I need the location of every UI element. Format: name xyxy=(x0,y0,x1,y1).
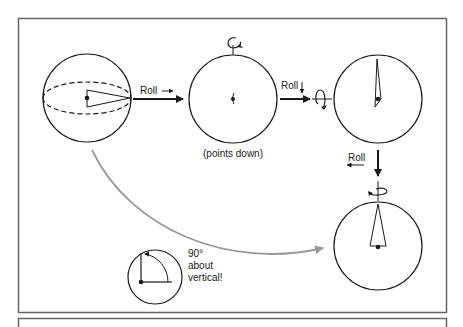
roll-arrow-1: Roll xyxy=(133,85,183,99)
inset-text-about: about xyxy=(188,260,213,271)
equivalence-curve-arrow xyxy=(92,150,323,254)
sphere-points-down: (points down) xyxy=(189,38,277,159)
points-down-caption: (points down) xyxy=(203,148,263,159)
inset-text-vertical: vertical! xyxy=(188,272,222,283)
rotation-icon xyxy=(316,90,325,106)
sphere-final xyxy=(334,202,422,290)
diagram-frame xyxy=(19,19,447,313)
roll-arrow-2: Roll xyxy=(280,80,332,110)
inset-text-90: 90° xyxy=(188,248,203,259)
rotation-diagram: Roll (points down) Roll Roll xyxy=(0,0,463,327)
roll-arrow-3: Roll xyxy=(347,150,387,201)
sphere-rolled xyxy=(334,55,422,143)
roll-label-2: Roll xyxy=(281,80,298,91)
next-panel-frame xyxy=(19,319,447,327)
roll-label-1: Roll xyxy=(140,85,157,96)
inset-90-degrees: 90° about vertical! xyxy=(128,248,222,304)
roll-label-3: Roll xyxy=(348,152,365,163)
initial-sphere xyxy=(43,54,131,142)
